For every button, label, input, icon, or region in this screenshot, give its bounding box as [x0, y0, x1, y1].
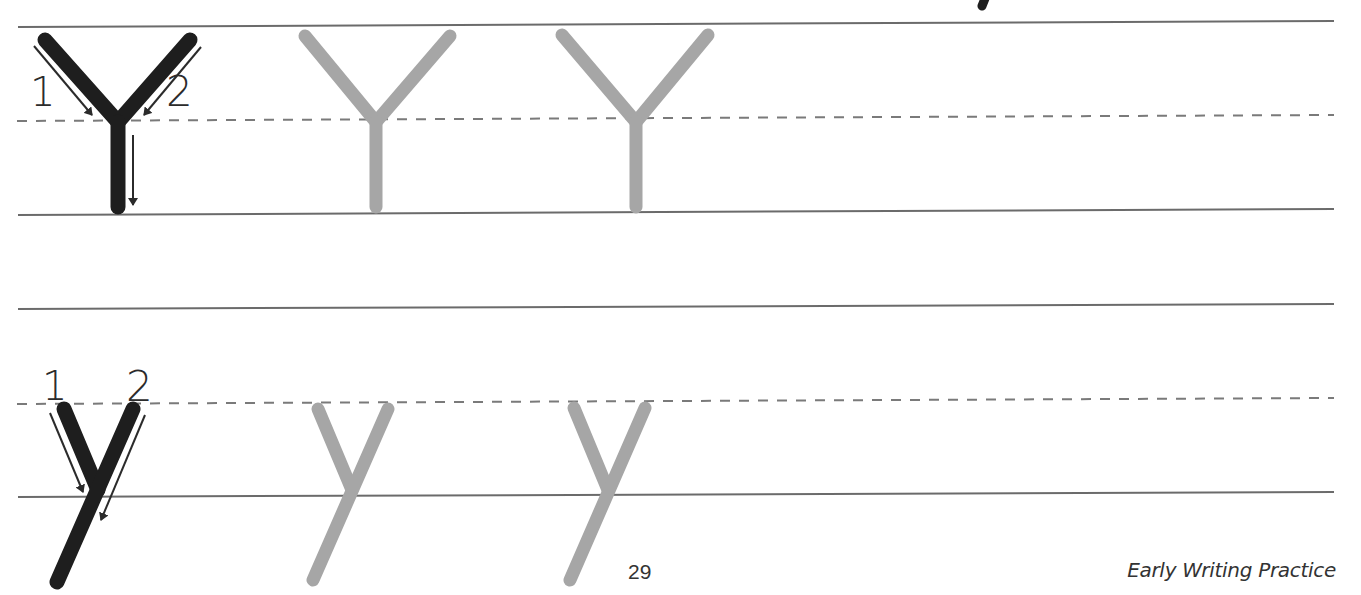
- midline-dashed: [17, 398, 1334, 404]
- trace-letter-upper-y: [562, 35, 708, 207]
- handwriting-worksheet: 1 2 1 2 29: [0, 0, 1361, 595]
- footer-title: Early Writing Practice: [1127, 558, 1336, 582]
- midline-dashed: [17, 115, 1334, 121]
- trace-letter-upper-y: [305, 36, 450, 207]
- trace-letter-lower-y: [313, 409, 388, 580]
- stroke-number-2: 2: [166, 67, 193, 116]
- stroke-number-1: 1: [42, 363, 67, 409]
- worksheet-canvas: 1 2 1 2: [0, 0, 1361, 595]
- guide-lines-upper: [17, 21, 1334, 215]
- stroke-number-2: 2: [126, 362, 153, 411]
- baseline: [18, 209, 1334, 215]
- top-line: [18, 304, 1334, 309]
- guide-lines-lower: [17, 304, 1334, 497]
- page-number: 29: [628, 560, 651, 584]
- cropped-glyph-fragment: [982, 0, 986, 6]
- baseline: [18, 492, 1334, 497]
- model-letter-lower-y: [57, 409, 133, 582]
- top-line: [18, 21, 1334, 27]
- model-letter-upper-y: [45, 40, 190, 207]
- stroke-number-1: 1: [30, 69, 55, 115]
